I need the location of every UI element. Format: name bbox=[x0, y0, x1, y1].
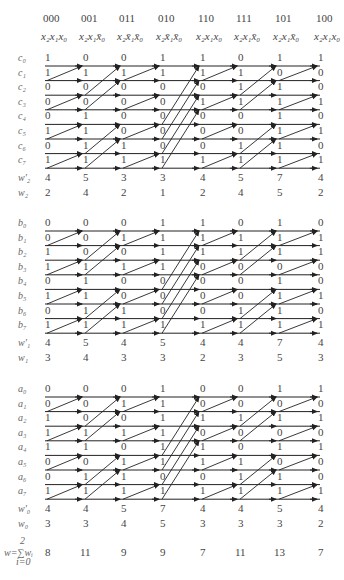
bit-value: 1 bbox=[83, 109, 89, 121]
column-code: 111 bbox=[236, 12, 252, 24]
bit-value: 0 bbox=[45, 95, 51, 107]
bit-value: 1 bbox=[277, 124, 283, 136]
bit-value: 1 bbox=[318, 245, 324, 257]
bit-value: 1 bbox=[238, 80, 244, 92]
w-label: w₂ bbox=[18, 187, 29, 198]
bit-value: 1 bbox=[83, 289, 89, 301]
arrow-diagonal bbox=[279, 66, 317, 81]
arrow-diagonal bbox=[123, 95, 159, 110]
w-value: 4 bbox=[238, 186, 244, 198]
bit-value: 0 bbox=[83, 216, 89, 228]
bit-value: 0 bbox=[83, 51, 89, 63]
bit-value: 1 bbox=[277, 289, 283, 301]
bit-value: 0 bbox=[121, 411, 127, 423]
wprime-value: 7 bbox=[277, 336, 283, 348]
bit-value: 1 bbox=[83, 318, 89, 330]
wprime-value: 4 bbox=[200, 171, 206, 183]
section-b: b₀b₁b₂b₃b₄b₅b₆b₇001101010001111101010011… bbox=[18, 216, 324, 363]
column-code: 010 bbox=[158, 12, 175, 24]
w-label: w₁ bbox=[18, 352, 28, 363]
w-value: 3 bbox=[121, 351, 127, 363]
wprime-value: 5 bbox=[83, 171, 89, 183]
bit-value: 0 bbox=[318, 216, 324, 228]
arrow-diagonal bbox=[202, 260, 237, 275]
w-value: 3 bbox=[83, 517, 89, 529]
bit-value: 0 bbox=[121, 440, 127, 452]
column-headers: 000x₂x₁x₀001x₂x₁x̄₀011x₂x̄₁x̄₀010x₂x̄₁x̄… bbox=[40, 12, 340, 42]
bit-value: 1 bbox=[238, 139, 244, 151]
arrow-diagonal bbox=[47, 485, 82, 500]
bit-value: 1 bbox=[160, 426, 166, 438]
bit-value: 1 bbox=[238, 66, 244, 78]
arrow-diagonal bbox=[123, 124, 159, 139]
row-label: c₀ bbox=[18, 52, 26, 63]
bit-value: 1 bbox=[238, 470, 244, 482]
row-label: a₁ bbox=[18, 398, 26, 409]
arrow-diagonal bbox=[47, 319, 82, 334]
column-code: 011 bbox=[119, 12, 135, 24]
arrow-diagonal bbox=[279, 154, 317, 169]
column-term: x₂x̄₁x̄₀ bbox=[116, 30, 143, 42]
arrow-diagonal bbox=[279, 319, 317, 334]
bit-value: 1 bbox=[83, 426, 89, 438]
bit-value: 1 bbox=[83, 304, 89, 316]
bit-value: 0 bbox=[200, 124, 206, 136]
bit-value: 0 bbox=[318, 397, 324, 409]
arrow-diagonal bbox=[47, 66, 82, 81]
wprime-label: w'₂ bbox=[18, 172, 31, 183]
bit-value: 1 bbox=[238, 455, 244, 467]
bit-value: 1 bbox=[160, 245, 166, 257]
arrow-diagonal bbox=[202, 231, 237, 246]
bit-value: 1 bbox=[318, 124, 324, 136]
w-value: 3 bbox=[318, 351, 324, 363]
bit-value: 1 bbox=[200, 245, 206, 257]
bit-value: 0 bbox=[277, 426, 283, 438]
wprime-value: 4 bbox=[121, 336, 127, 348]
bit-value: 1 bbox=[160, 66, 166, 78]
bit-value: 0 bbox=[318, 139, 324, 151]
row-label: b₂ bbox=[18, 246, 27, 257]
bit-value: 1 bbox=[277, 109, 283, 121]
w-value: 2 bbox=[200, 351, 206, 363]
row-label: c₂ bbox=[18, 81, 26, 92]
w-value: 5 bbox=[277, 186, 283, 198]
bit-value: 0 bbox=[121, 245, 127, 257]
bit-value: 1 bbox=[83, 66, 89, 78]
arrow-diagonal bbox=[279, 485, 317, 500]
bit-value: 1 bbox=[277, 382, 283, 394]
arrow-diagonal bbox=[202, 485, 237, 500]
bit-value: 1 bbox=[238, 411, 244, 423]
total-value: 7 bbox=[318, 546, 324, 558]
wprime-value: 7 bbox=[277, 171, 283, 183]
bit-value: 1 bbox=[121, 397, 127, 409]
bit-value: 0 bbox=[200, 289, 206, 301]
wprime-value: 4 bbox=[238, 502, 244, 514]
bit-value: 0 bbox=[318, 109, 324, 121]
bit-value: 0 bbox=[238, 109, 244, 121]
wprime-value: 3 bbox=[160, 171, 166, 183]
arrow-diagonal bbox=[202, 455, 237, 470]
bit-value: 1 bbox=[83, 274, 89, 286]
bit-value: 0 bbox=[238, 382, 244, 394]
row-label: b₅ bbox=[18, 290, 27, 301]
bit-value: 0 bbox=[83, 80, 89, 92]
column-code: 100 bbox=[316, 12, 333, 24]
bit-value: 1 bbox=[200, 484, 206, 496]
bit-value: 1 bbox=[200, 318, 206, 330]
bit-value: 1 bbox=[318, 95, 324, 107]
bit-value: 0 bbox=[83, 397, 89, 409]
bit-value: 0 bbox=[45, 382, 51, 394]
arrow-diagonal bbox=[123, 455, 159, 470]
w-value: 3 bbox=[45, 517, 51, 529]
bit-value: 0 bbox=[238, 51, 244, 63]
arrow-diagonal bbox=[47, 95, 82, 110]
bit-value: 1 bbox=[45, 124, 51, 136]
bit-value: 1 bbox=[200, 51, 206, 63]
wprime-value: 7 bbox=[160, 502, 166, 514]
bit-value: 1 bbox=[160, 382, 166, 394]
column-term: x₂x₁x̄₀ bbox=[233, 30, 260, 42]
w-value: 3 bbox=[277, 517, 283, 529]
arrow-diagonal bbox=[279, 95, 317, 110]
bit-value: 0 bbox=[83, 95, 89, 107]
bit-value: 1 bbox=[318, 153, 324, 165]
